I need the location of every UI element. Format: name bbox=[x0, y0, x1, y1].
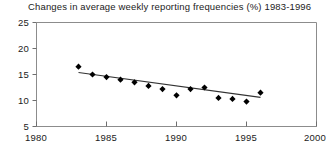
data-point bbox=[173, 92, 179, 98]
data-point bbox=[103, 74, 109, 80]
chart-container: Changes in average weekly reporting freq… bbox=[0, 0, 329, 155]
data-point bbox=[229, 96, 235, 102]
data-point bbox=[257, 90, 263, 96]
y-tick-label-5: 5 bbox=[24, 121, 29, 132]
x-tick-label-1995: 1995 bbox=[235, 132, 257, 143]
chart-plot-area: 25 20 15 10 5 1980 1985 1990 1995 2000 bbox=[0, 0, 329, 155]
x-tick-label-1980: 1980 bbox=[25, 132, 47, 143]
data-point bbox=[75, 64, 81, 70]
x-axis-ticks bbox=[37, 122, 317, 127]
data-point-group bbox=[75, 64, 263, 105]
x-tick-label-1990: 1990 bbox=[165, 132, 187, 143]
y-tick-label-15: 15 bbox=[18, 69, 29, 80]
y-tick-label-10: 10 bbox=[18, 95, 29, 106]
data-point bbox=[243, 98, 249, 104]
data-point bbox=[215, 95, 221, 101]
data-point bbox=[159, 86, 165, 92]
y-tick-label-25: 25 bbox=[18, 17, 29, 28]
x-tick-label-2000: 2000 bbox=[304, 132, 326, 143]
y-tick-label-20: 20 bbox=[18, 43, 29, 54]
data-point bbox=[187, 86, 193, 92]
plot-border bbox=[37, 23, 317, 127]
axis-frame bbox=[37, 23, 317, 127]
data-point bbox=[89, 71, 95, 77]
x-tick-label-1985: 1985 bbox=[95, 132, 117, 143]
y-axis-ticks bbox=[33, 23, 37, 127]
data-point bbox=[145, 83, 151, 89]
